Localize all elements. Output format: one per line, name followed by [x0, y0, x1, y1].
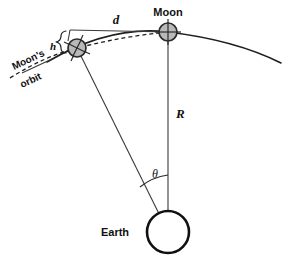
earth-label: Earth — [101, 226, 129, 238]
moon-orbit-figure: Moon Earth d h R θ Moon's orbit — [0, 0, 292, 263]
height-h-label: h — [50, 40, 56, 52]
moon-label: Moon — [153, 6, 183, 18]
radius-line-left — [77, 48, 168, 232]
orbit-label-line1: Moon's — [10, 47, 46, 72]
theta-label: θ — [152, 167, 158, 181]
physics-diagram: Moon Earth d h R θ Moon's orbit — [0, 0, 292, 263]
chord-left-tick — [68, 30, 70, 41]
distance-d-label: d — [113, 12, 120, 27]
earth-circle — [147, 211, 189, 253]
moon-right — [155, 19, 181, 45]
orbit-label-line2: orbit — [18, 70, 43, 90]
radius-R-label: R — [175, 106, 185, 121]
